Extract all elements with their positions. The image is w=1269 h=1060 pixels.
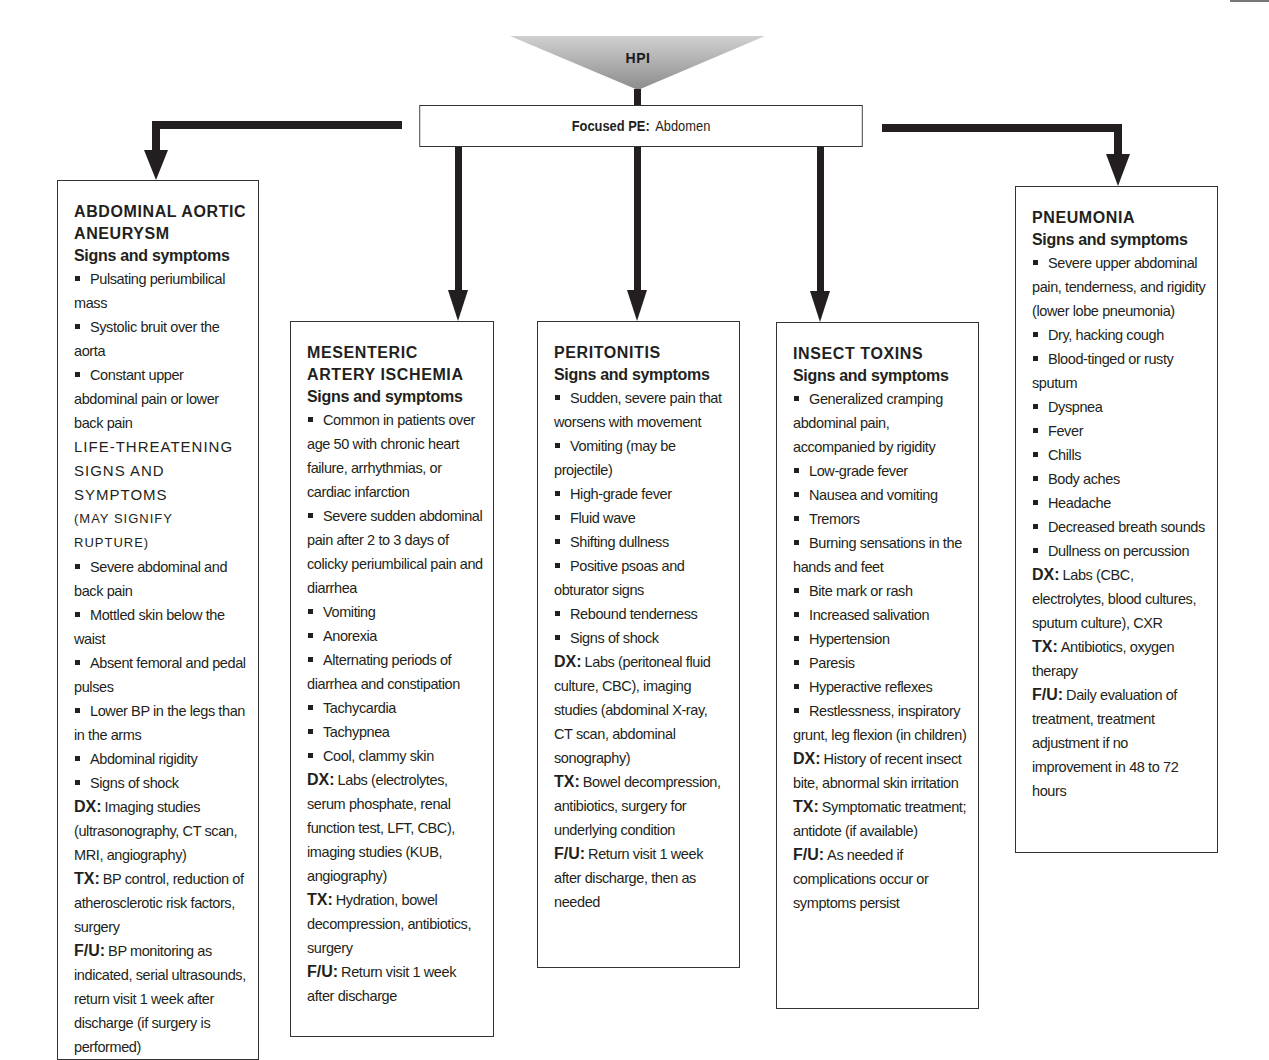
fu-section: F/U:Daily evaluation of treatment, treat… <box>1032 683 1207 803</box>
focused-pe-label: Focused PE: <box>572 118 650 134</box>
fu-section: F/U:Return visit 1 week after discharge,… <box>554 842 729 914</box>
bullet-icon <box>75 276 80 281</box>
bullet-icon <box>308 513 313 518</box>
sign-item: Systolic bruit over the aorta <box>74 315 248 363</box>
condition-title-line2: ANEURYSM <box>74 223 248 245</box>
bullet-icon <box>75 324 80 329</box>
signs-heading: Signs and symptoms <box>793 365 968 387</box>
tx-section: TX:Symptomatic treatment; antidote (if a… <box>793 795 968 843</box>
sign-item: Abdominal rigidity <box>74 747 248 771</box>
sign-item: Burning sensations in the hands and feet <box>793 531 968 579</box>
sign-item: Tachypnea <box>307 720 483 744</box>
sign-item: Body aches <box>1032 467 1207 491</box>
sign-item: Fever <box>1032 419 1207 443</box>
sign-item: Vomiting (may be projectile) <box>554 434 729 482</box>
sign-item: Nausea and vomiting <box>793 483 968 507</box>
bullet-icon <box>75 756 80 761</box>
sign-item: Chills <box>1032 443 1207 467</box>
bullet-icon <box>555 539 560 544</box>
bullet-icon <box>794 492 799 497</box>
bullet-icon <box>308 729 313 734</box>
arrow-to-mesenteric <box>448 147 468 321</box>
condition-title: MESENTERIC <box>307 342 483 364</box>
sign-item: Shifting dullness <box>554 530 729 554</box>
arrow-to-peritonitis <box>627 147 647 321</box>
sign-item: Anorexia <box>307 624 483 648</box>
bullet-icon <box>794 684 799 689</box>
dx-section: DX:History of recent insect bite, abnorm… <box>793 747 968 795</box>
condition-title: PERITONITIS <box>554 342 729 364</box>
condition-title: INSECT TOXINS <box>793 343 968 365</box>
sign-item: Vomiting <box>307 600 483 624</box>
bullet-icon <box>555 563 560 568</box>
bullet-icon <box>794 540 799 545</box>
bullet-icon <box>555 491 560 496</box>
condition-card-abdominal-aortic-aneurysm: ABDOMINAL AORTIC ANEURYSM Signs and symp… <box>57 180 259 1060</box>
bullet-icon <box>1033 476 1038 481</box>
bullet-icon <box>1033 452 1038 457</box>
sign-item: Severe sudden abdominal pain after 2 to … <box>307 504 483 600</box>
sign-item: Bite mark or rash <box>793 579 968 603</box>
bullet-icon <box>794 516 799 521</box>
dx-section: DX:Labs (peritoneal fluid culture, CBC),… <box>554 650 729 770</box>
arrow-to-insect-toxins <box>810 147 830 322</box>
bullet-icon <box>555 611 560 616</box>
arrow-to-pneumonia <box>882 124 1130 186</box>
focused-pe-value: Abdomen <box>655 118 710 134</box>
bullet-icon <box>1033 524 1038 529</box>
focused-pe-box: Focused PE: Abdomen <box>419 105 862 147</box>
sign-item: Lower BP in the legs than in the arms <box>74 699 248 747</box>
bullet-icon <box>1033 428 1038 433</box>
hpi-label: HPI <box>610 50 666 66</box>
bullet-icon <box>1033 500 1038 505</box>
fu-section: F/U:Return visit 1 week after discharge <box>307 960 483 1008</box>
signs-heading: Signs and symptoms <box>554 364 729 386</box>
sign-item: Signs of shock <box>74 771 248 795</box>
bullet-icon <box>794 396 799 401</box>
sign-item: Blood-tinged or rusty sputum <box>1032 347 1207 395</box>
bullet-icon <box>555 395 560 400</box>
bullet-icon <box>1033 332 1038 337</box>
sign-item: Generalized cramping abdominal pain, acc… <box>793 387 968 459</box>
bullet-icon <box>308 657 313 662</box>
bullet-icon <box>308 609 313 614</box>
tx-section: TX:Antibiotics, oxygen therapy <box>1032 635 1207 683</box>
bullet-icon <box>794 612 799 617</box>
bullet-icon <box>75 708 80 713</box>
condition-title-line2: ARTERY ISCHEMIA <box>307 364 483 386</box>
bullet-icon <box>75 564 80 569</box>
dx-section: DX:Labs (electrolytes, serum phosphate, … <box>307 768 483 888</box>
sign-item: High-grade fever <box>554 482 729 506</box>
condition-card-peritonitis: PERITONITIS Signs and symptoms Sudden, s… <box>537 321 740 968</box>
condition-title: PNEUMONIA <box>1032 207 1207 229</box>
sign-item: Increased salivation <box>793 603 968 627</box>
tx-section: TX:BP control, reduction of atherosclero… <box>74 867 248 939</box>
bullet-icon <box>794 588 799 593</box>
bullet-icon <box>75 372 80 377</box>
tx-section: TX:Hydration, bowel decompression, antib… <box>307 888 483 960</box>
sign-item: Rebound tenderness <box>554 602 729 626</box>
sign-item: Restlessness, inspiratory grunt, leg fle… <box>793 699 968 747</box>
life-threatening-heading-line2: SIGNS AND SYMPTOMS <box>74 459 248 507</box>
sign-item: Dullness on percussion <box>1032 539 1207 563</box>
condition-card-pneumonia: PNEUMONIA Signs and symptoms Severe uppe… <box>1015 186 1218 853</box>
bullet-icon <box>794 636 799 641</box>
sign-item: Decreased breath sounds <box>1032 515 1207 539</box>
sign-item: Absent femoral and pedal pulses <box>74 651 248 699</box>
bullet-icon <box>75 660 80 665</box>
condition-card-mesenteric-artery-ischemia: MESENTERIC ARTERY ISCHEMIA Signs and sym… <box>290 321 494 1037</box>
life-threatening-heading: LIFE-THREATENING <box>74 435 248 459</box>
sign-item: Alternating periods of diarrhea and cons… <box>307 648 483 696</box>
signs-heading: Signs and symptoms <box>307 386 483 408</box>
sign-item: Sudden, severe pain that worsens with mo… <box>554 386 729 434</box>
sign-item: Headache <box>1032 491 1207 515</box>
bullet-icon <box>794 660 799 665</box>
dx-section: DX:Imaging studies (ultrasonography, CT … <box>74 795 248 867</box>
bullet-icon <box>75 780 80 785</box>
sign-item: Severe upper abdominal pain, tenderness,… <box>1032 251 1207 323</box>
bullet-icon <box>308 417 313 422</box>
bullet-icon <box>555 443 560 448</box>
sign-item: Hypertension <box>793 627 968 651</box>
sign-item: Severe abdominal and back pain <box>74 555 248 603</box>
bullet-icon <box>308 633 313 638</box>
